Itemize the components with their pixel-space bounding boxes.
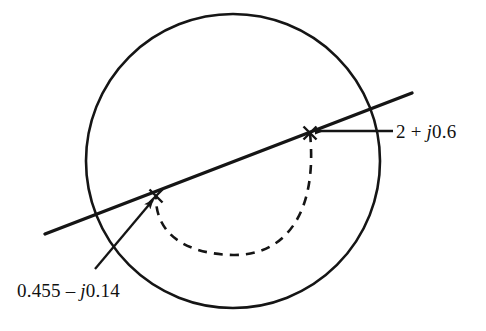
label-upper-right-prefix: 2 + (396, 121, 427, 142)
dashed-arc (156, 133, 311, 255)
label-lower-left-prefix: 0.455 – (17, 280, 80, 301)
label-upper-right-suffix: 0.6 (432, 121, 456, 142)
label-lower-left: 0.455 – j0.14 (17, 281, 120, 300)
smith-chart-figure: 0.455 – j0.14 2 + j0.6 (0, 0, 486, 331)
chord-line (45, 93, 412, 234)
label-upper-right: 2 + j0.6 (396, 122, 456, 141)
label-lower-left-suffix: 0.14 (86, 280, 120, 301)
